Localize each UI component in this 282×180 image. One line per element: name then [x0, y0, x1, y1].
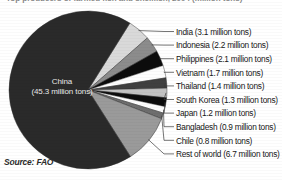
legend-item-label: Philippines (2.1 million tons) [176, 54, 272, 64]
legend-item-label: Rest of world (6.7 million tons) [176, 149, 280, 159]
legend-item: Vietnam (1.7 million tons) [176, 66, 282, 80]
legend-item-label: Bangladesh (0.9 million tons) [176, 122, 276, 132]
legend-item: Bangladesh (0.9 million tons) [176, 120, 282, 134]
legend-item: Philippines (2.1 million tons) [176, 52, 282, 66]
legend-item: South Korea (1.3 million tons) [176, 93, 282, 107]
pie-chart-figure: Top producers of farmed fish and shellfi… [0, 0, 282, 180]
legend-item-label: India (3.1 million tons) [176, 27, 251, 37]
legend-item: Thailand (1.4 million tons) [176, 79, 282, 93]
source-attribution: Source: FAO [4, 157, 53, 167]
legend-item-label: Vietnam (1.7 million tons) [176, 68, 263, 78]
legend: India (3.1 million tons)Indonesia (2.2 m… [176, 25, 282, 161]
leader-line [163, 110, 174, 127]
legend-item-label: Indonesia (2.2 million tons) [176, 40, 268, 50]
pie-slices [9, 11, 167, 169]
legend-item: Japan (1.2 million tons) [176, 107, 282, 121]
legend-item: Rest of world (6.7 million tons) [176, 147, 282, 161]
legend-item: India (3.1 million tons) [176, 25, 282, 39]
legend-item: Chile (0.8 million tons) [176, 134, 282, 148]
legend-item-label: Chile (0.8 million tons) [176, 136, 252, 146]
legend-item-label: Japan (1.2 million tons) [176, 108, 256, 118]
legend-item-label: Thailand (1.4 million tons) [176, 81, 264, 91]
legend-item: Indonesia (2.2 million tons) [176, 39, 282, 53]
legend-item-label: South Korea (1.3 million tons) [176, 95, 278, 105]
leader-line [148, 140, 174, 154]
leader-line [139, 31, 174, 32]
